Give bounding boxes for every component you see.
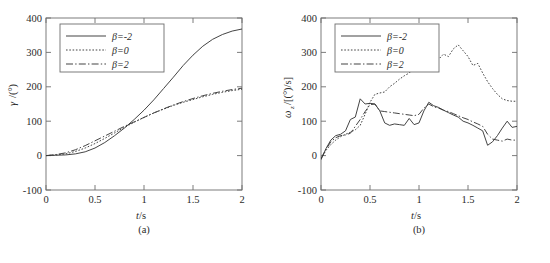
panel-a: -100 0 100 200 300 400 0 0.5 1 1.5 2 γ /…: [0, 0, 275, 263]
panel-b-svg: -100 0 100 200 300 400 0 0.5 1 1.5 2 ω z…: [275, 0, 550, 263]
y-tick-label: 100: [301, 116, 317, 127]
y-tick-label: 200: [26, 81, 42, 92]
y-tick-label: 300: [26, 47, 42, 58]
y-tick-label: -100: [23, 185, 42, 196]
x-tick-label: 1: [141, 194, 146, 205]
x-tick-label: 1: [416, 194, 421, 205]
legend-label-beta-0: β=0: [111, 45, 129, 56]
y-tick-label: 400: [301, 13, 317, 24]
y-tick-label: 200: [301, 81, 317, 92]
legend-label-beta-minus2: β=-2: [386, 31, 407, 42]
x-tick-label: 1.5: [461, 194, 474, 205]
panel-a-svg: -100 0 100 200 300 400 0 0.5 1 1.5 2 γ /…: [0, 0, 275, 263]
figure-container: -100 0 100 200 300 400 0 0.5 1 1.5 2 γ /…: [0, 0, 550, 263]
panel-b-legend: β=-2 β=0 β=2: [335, 24, 439, 72]
y-tick-label: 0: [37, 150, 42, 161]
legend-label-beta-minus2: β=-2: [111, 31, 132, 42]
legend-label-beta-0: β=0: [386, 45, 404, 56]
x-tick-label: 0.5: [88, 194, 101, 205]
panel-a-legend: β=-2 β=0 β=2: [60, 24, 164, 72]
y-axis-label-unit: /[(°)/s]: [282, 77, 294, 105]
panel-b-x-axis-label: t /s: [411, 210, 421, 221]
x-tick-label: 0: [318, 194, 323, 205]
y-tick-label: 0: [312, 150, 317, 161]
y-axis-label-subscript: z: [288, 106, 296, 110]
legend-label-beta-2: β=2: [111, 59, 129, 70]
x-tick-label: 2: [514, 194, 519, 205]
x-axis-label-unit: /s: [414, 210, 421, 221]
x-tick-label: 1.5: [186, 194, 199, 205]
x-axis-label-unit: /s: [139, 210, 146, 221]
panel-b: -100 0 100 200 300 400 0 0.5 1 1.5 2 ω z…: [275, 0, 550, 263]
y-axis-label-unit: /(°): [7, 83, 19, 98]
x-tick-label: 2: [239, 194, 244, 205]
panel-a-x-axis-label: t /s: [136, 210, 146, 221]
x-tick-label: 0.5: [363, 194, 376, 205]
legend-label-beta-2: β=2: [386, 59, 404, 70]
y-tick-label: -100: [298, 185, 317, 196]
panel-a-y-axis-label: γ /(°): [7, 83, 19, 106]
y-tick-label: 400: [26, 13, 42, 24]
x-tick-label: 0: [43, 194, 48, 205]
panel-b-caption: (b): [413, 224, 426, 236]
y-axis-label-symbol: ω: [282, 111, 293, 118]
y-tick-label: 100: [26, 116, 42, 127]
y-tick-label: 300: [301, 47, 317, 58]
panel-a-caption: (a): [138, 224, 150, 236]
